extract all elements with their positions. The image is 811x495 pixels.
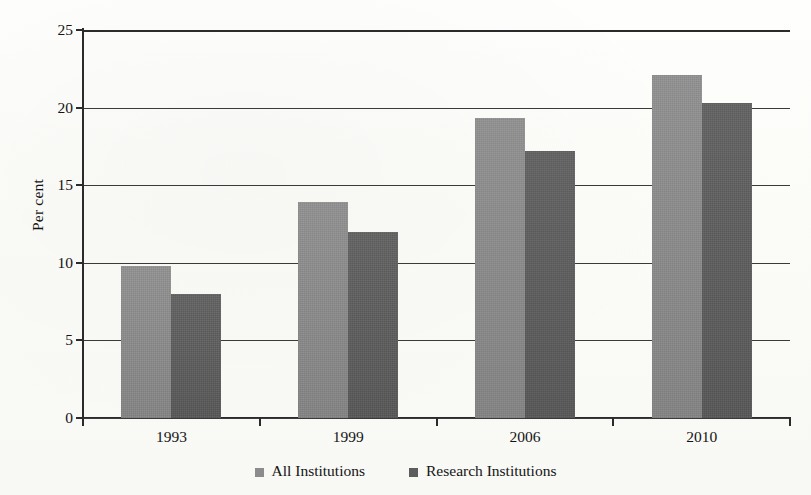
x-tick-3 [612,418,614,426]
x-axis-label-2006: 2006 [509,428,540,446]
x-axis-label-1999: 1999 [333,428,364,446]
x-axis-label-2010: 2010 [686,428,717,446]
bar-chart: Per cent 0510152025 1993199920062010 All… [0,0,811,495]
bar-1999-all-institutions [298,202,348,418]
y-tick-15 [76,184,84,186]
x-tick-4 [789,418,791,426]
y-tick-label-20: 20 [58,99,74,117]
legend-label-all-institutions: All Institutions [272,462,365,480]
bar-1993-all-institutions [121,266,171,418]
y-tick-label-5: 5 [65,331,73,349]
x-tick-2 [436,418,438,426]
bar-1993-research-institutions [171,294,221,418]
y-tick-label-25: 25 [58,21,74,39]
y-axis-title: Per cent [29,145,47,265]
legend-item-all-institutions: All Institutions [255,462,365,480]
bar-2010-all-institutions [652,75,702,418]
plot-area: 0510152025 [83,30,790,418]
x-tick-1 [259,418,261,426]
bar-2010-research-institutions [702,103,752,418]
gridline-25 [83,30,790,32]
square-marker-light-icon [255,468,264,477]
bar-2006-all-institutions [475,118,525,418]
square-marker-dark-icon [409,468,418,477]
y-tick-20 [76,107,84,109]
legend-item-research-institutions: Research Institutions [409,462,556,480]
bar-2006-research-institutions [525,151,575,418]
bar-1999-research-institutions [348,232,398,418]
chart-legend: All Institutions Research Institutions [0,462,811,480]
x-axis-label-1993: 1993 [156,428,187,446]
y-tick-5 [76,339,84,341]
y-tick-label-10: 10 [58,254,74,272]
y-tick-10 [76,262,84,264]
legend-label-research-institutions: Research Institutions [426,462,556,480]
y-tick-25 [76,29,84,31]
y-tick-label-15: 15 [58,176,74,194]
y-tick-label-0: 0 [65,409,73,427]
x-tick-0 [82,418,84,426]
